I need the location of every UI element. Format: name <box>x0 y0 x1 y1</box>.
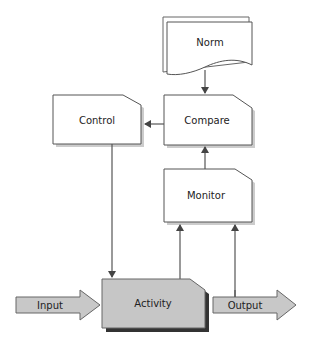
compare-label: Compare <box>184 115 229 126</box>
norm-node: Norm <box>163 17 252 75</box>
control-label: Control <box>79 115 115 126</box>
output-arrow: Output <box>213 290 296 320</box>
activity-node: Activity <box>102 279 209 332</box>
output-label: Output <box>228 300 263 311</box>
norm-label: Norm <box>196 37 223 48</box>
activity-label: Activity <box>134 298 171 309</box>
control-loop-diagram: Norm Compare Control Monitor Activity In… <box>0 0 314 351</box>
monitor-label: Monitor <box>187 190 226 201</box>
monitor-node: Monitor <box>164 169 255 225</box>
input-label: Input <box>37 300 63 311</box>
control-node: Control <box>53 95 144 147</box>
input-arrow: Input <box>16 290 100 320</box>
compare-node: Compare <box>164 95 255 148</box>
